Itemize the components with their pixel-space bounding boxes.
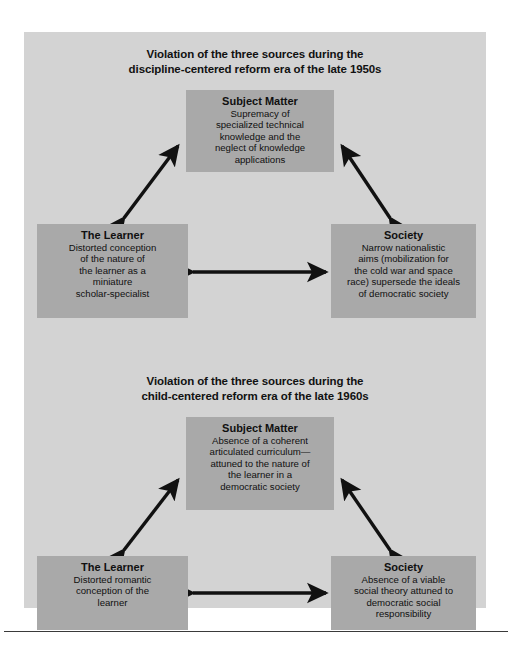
node-society-2[interactable]: Society Absence of a viable social theor…	[331, 556, 476, 630]
node-title: The Learner	[81, 561, 144, 574]
diagram-1-title-line-1: Violation of the three sources during th…	[24, 47, 486, 62]
node-body: Narrow nationalistic aims (mobilization …	[347, 242, 460, 299]
node-title: Society	[384, 561, 423, 574]
node-title: Society	[384, 229, 423, 242]
diagram-panel: Violation of the three sources during th…	[24, 32, 486, 608]
figure-container: Violation of the three sources during th…	[0, 0, 512, 647]
diagram-1-title: Violation of the three sources during th…	[24, 47, 486, 76]
diagram-discipline-centered: Violation of the three sources during th…	[24, 32, 486, 332]
node-body: Absence of a viable social theory attune…	[354, 574, 453, 620]
diagram-2-title-line-1: Violation of the three sources during th…	[24, 374, 486, 389]
node-title: Subject Matter	[222, 95, 298, 108]
arrow-society-subject-matter	[342, 146, 390, 218]
node-learner-2[interactable]: The Learner Distorted romantic conceptio…	[37, 556, 188, 630]
node-body: Distorted romantic conception of the lea…	[74, 574, 152, 608]
arrow-learner-subject-matter	[124, 146, 178, 218]
diagram-child-centered: Violation of the three sources during th…	[24, 332, 486, 608]
node-society-1[interactable]: Society Narrow nationalistic aims (mobil…	[331, 224, 476, 318]
node-title: Subject Matter	[222, 422, 298, 435]
node-subject-matter-2[interactable]: Subject Matter Absence of a coherent art…	[186, 417, 334, 510]
diagram-1-title-line-2: discipline-centered reform era of the la…	[24, 62, 486, 77]
node-body: Supremacy of specialized technical knowl…	[215, 108, 305, 165]
node-learner-1[interactable]: The Learner Distorted conception of the …	[37, 224, 188, 318]
diagram-2-title: Violation of the three sources during th…	[24, 374, 486, 403]
footer-divider	[4, 631, 508, 632]
arrow-learner-subject-matter	[124, 480, 178, 550]
node-body: Absence of a coherent articulated curric…	[210, 435, 311, 492]
node-title: The Learner	[81, 229, 144, 242]
diagram-2-title-line-2: child-centered reform era of the late 19…	[24, 389, 486, 404]
node-body: Distorted conception of the nature of th…	[69, 242, 156, 299]
node-subject-matter-1[interactable]: Subject Matter Supremacy of specialized …	[186, 90, 334, 172]
arrow-society-subject-matter	[342, 480, 390, 550]
